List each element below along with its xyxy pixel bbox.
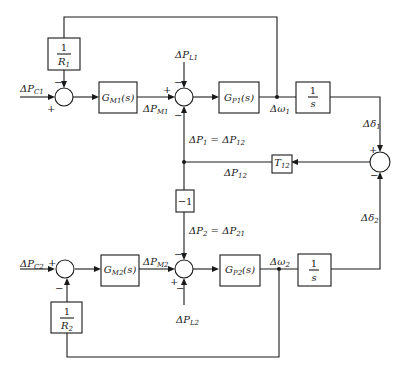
sign-plus: + bbox=[47, 103, 55, 114]
signal-omega1: Δω1 bbox=[269, 103, 290, 116]
inv-R2-num: 1 bbox=[64, 306, 70, 317]
sign-plus: + bbox=[48, 257, 56, 268]
signal-PM2: ΔPM2 bbox=[142, 256, 169, 269]
int2-num: 1 bbox=[311, 258, 317, 269]
int1-den: s bbox=[310, 98, 315, 109]
inv-R1-num: 1 bbox=[61, 42, 67, 53]
sign-minus: − bbox=[54, 77, 62, 88]
arrowhead bbox=[64, 278, 70, 285]
two-area-block-diagram: 1 R1 GM1(s) GP1(s) 1 s T12 −1 GM2(s) GP2… bbox=[0, 0, 407, 375]
signal-P2-eq-P21: ΔP2 = ΔP21 bbox=[188, 225, 245, 238]
sign-plus: + bbox=[163, 84, 171, 95]
arrowhead bbox=[92, 94, 99, 100]
signal-P12: ΔP12 bbox=[223, 167, 247, 180]
int2-den: s bbox=[311, 272, 316, 283]
signal-omega2: Δω2 bbox=[269, 256, 290, 269]
int1-num: 1 bbox=[310, 85, 316, 96]
sign-minus: − bbox=[174, 249, 182, 260]
branch-node-P12 bbox=[182, 160, 186, 164]
signal-delta1: Δδ1 bbox=[362, 118, 381, 131]
summing-junction-area2-governor bbox=[56, 260, 74, 278]
signal-PC1: ΔPC1 bbox=[19, 83, 44, 96]
summing-junction-angle bbox=[370, 152, 390, 172]
sign-minus: − bbox=[176, 283, 184, 294]
arrowhead bbox=[212, 266, 219, 272]
neg1-label: −1 bbox=[178, 196, 193, 207]
arrowhead bbox=[48, 94, 55, 100]
sign-minus: − bbox=[55, 283, 63, 294]
sign-minus: − bbox=[174, 77, 182, 88]
summing-junction-area1-governor bbox=[55, 88, 73, 106]
branch-node-omega2 bbox=[277, 267, 281, 271]
arrowhead bbox=[212, 94, 219, 100]
sign-minus: − bbox=[174, 110, 182, 121]
sign-plus: + bbox=[369, 144, 377, 155]
signal-PL1: ΔPL1 bbox=[174, 49, 198, 62]
arrowhead bbox=[377, 145, 383, 152]
summing-junction-area1-power bbox=[175, 88, 193, 106]
signal-PL2: ΔPL2 bbox=[175, 314, 200, 327]
sign-minus: − bbox=[370, 170, 378, 181]
branch-node-omega1 bbox=[275, 95, 279, 99]
signal-delta2: Δδ2 bbox=[360, 212, 379, 225]
arrowhead bbox=[94, 266, 101, 272]
signal-PM1: ΔPM1 bbox=[142, 103, 169, 116]
arrowhead bbox=[168, 266, 175, 272]
signal-P1-eq-P12: ΔP1 = ΔP12 bbox=[188, 134, 246, 147]
wire-delta2 bbox=[330, 178, 380, 269]
